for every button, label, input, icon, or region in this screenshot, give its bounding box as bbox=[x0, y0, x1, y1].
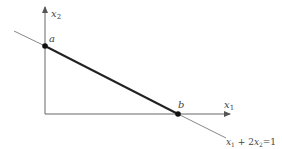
point-b-label: b bbox=[178, 99, 184, 110]
x-axis-label: x1 bbox=[224, 99, 234, 112]
line-extension-right bbox=[178, 114, 226, 138]
line-extension-left bbox=[14, 31, 45, 46]
line-equation-label: x1 + 2x2=1 bbox=[226, 137, 276, 148]
feasible-segment bbox=[45, 46, 178, 114]
y-axis-label: x2 bbox=[51, 8, 61, 21]
point-b bbox=[175, 111, 181, 117]
point-a-label: a bbox=[49, 33, 55, 44]
point-a bbox=[42, 43, 48, 49]
diagram-canvas: a b x2 x1 x1 + 2x2=1 bbox=[0, 0, 282, 149]
